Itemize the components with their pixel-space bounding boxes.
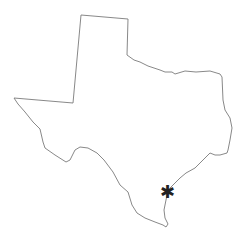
texas-map xyxy=(0,0,249,242)
asterisk-marker-icon: ✱ xyxy=(160,183,175,201)
texas-outline xyxy=(14,15,232,227)
